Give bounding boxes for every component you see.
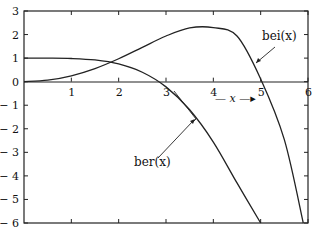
x-tick-label: 2 [116,86,123,99]
bei-curve [24,27,303,223]
kelvin-chart: 1234563210− 1− 2− 3− 4− 5− 6 bei(x) ber(… [0,0,317,235]
ber-pointer-line [174,91,196,119]
y-tick-label: − 2 [0,123,19,136]
x-tick-label: 5 [258,86,265,99]
ber-label: ber(x) [134,155,171,169]
y-tick-label: 2 [12,29,19,42]
x-tick-label: 6 [305,86,312,99]
y-tick-label: − 6 [0,217,19,230]
x-tick-label: 1 [68,86,75,99]
bei-label: bei(x) [262,29,297,43]
y-tick-label: 3 [12,5,19,18]
y-tick-label: 1 [12,52,19,65]
ber-curve [24,58,261,223]
y-tick-label: − 1 [0,99,19,112]
y-tick-label: 0 [12,76,19,89]
y-tick-label: − 4 [0,170,19,183]
ber-pointer-line-main [158,121,193,158]
y-tick-label: − 3 [0,146,19,159]
y-tick-label: − 5 [0,193,19,206]
x-axis-arrow-label: — x —▸ [215,92,256,105]
bei-pointer-arrowhead [256,58,261,63]
